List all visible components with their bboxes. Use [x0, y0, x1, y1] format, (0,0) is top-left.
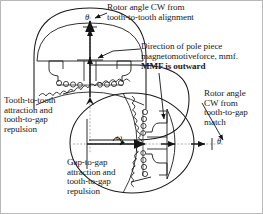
- label-gap-to-gap-attraction: Gap-to-gap attraction and tooth-to-gap r…: [67, 158, 115, 197]
- label-rotor-angle-tooth-to-tooth: Rotor angle CW from tooth-to-tooth align…: [107, 3, 194, 22]
- upper-pole-left: [49, 61, 58, 82]
- upper-pole-left-slot: [49, 61, 63, 69]
- label-rotor-angle-tooth-to-gap: Rotor angle CW from tooth-to-gap match: [204, 89, 248, 128]
- lower-pole-top: [146, 123, 167, 132]
- figure-canvas: Rotor angle CW from tooth-to-tooth align…: [0, 0, 263, 214]
- lower-pole-bottom-slot: [159, 163, 167, 175]
- upper-stator-teeth: [39, 79, 130, 96]
- leader-bottom: [131, 177, 151, 182]
- leader-top: [95, 13, 107, 18]
- lower-pole-bottom: [146, 154, 167, 163]
- leader-mmf-lower: [159, 73, 164, 119]
- label-mmf-outward: MMF is outward: [141, 62, 205, 72]
- label-mmf-direction: Direction of pole piece magnetomotivefor…: [141, 42, 238, 61]
- leader-mmf-upper: [98, 49, 140, 58]
- omega-symbol: ω: [116, 132, 122, 142]
- label-tooth-to-tooth-attraction: Tooth-to-tooth attraction and tooth-to-g…: [4, 96, 56, 135]
- theta-symbol-top: θ: [85, 12, 89, 22]
- theta-symbol-right: θ: [217, 136, 221, 146]
